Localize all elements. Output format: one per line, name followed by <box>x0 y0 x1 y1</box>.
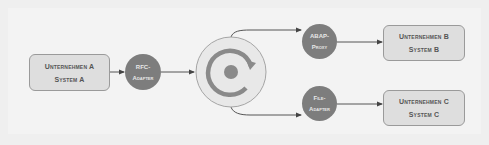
abap-proxy-line2: Proxy <box>312 44 327 50</box>
system-b-box[interactable]: Unternehmen B System B <box>383 25 465 61</box>
system-c-company: Unternehmen C <box>399 98 449 105</box>
system-b-company: Unternehmen B <box>399 33 449 40</box>
edge-hub-to-abap-proxy <box>231 30 301 37</box>
edge-hub-to-file-adapter <box>231 107 301 115</box>
file-adapter-line1: File- <box>314 95 326 101</box>
rfc-adapter-line1: RFC- <box>136 64 150 70</box>
system-a-company: Unternehmen A <box>45 63 95 70</box>
system-c-box[interactable]: Unternehmen C System C <box>383 90 465 126</box>
hub-center-dot <box>224 65 238 79</box>
file-adapter-line2: Adapter <box>309 106 330 112</box>
integration-hub[interactable] <box>196 37 266 107</box>
abap-proxy-line1: ABAP- <box>310 33 329 39</box>
rfc-adapter-node[interactable]: RFC- Adapter <box>125 54 161 90</box>
system-a-system: System A <box>54 76 84 83</box>
rfc-adapter-line2: Adapter <box>133 75 154 81</box>
system-c-system: System C <box>409 111 440 118</box>
system-a-box[interactable]: Unternehmen A System A <box>29 54 110 91</box>
file-adapter-node[interactable]: File- Adapter <box>302 86 337 121</box>
abap-proxy-node[interactable]: ABAP- Proxy <box>302 24 337 59</box>
system-b-system: System B <box>409 46 440 53</box>
